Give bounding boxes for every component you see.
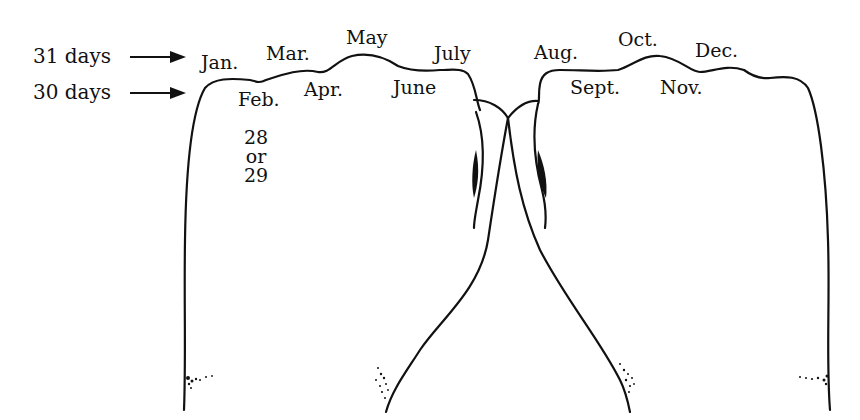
month-oct: Oct. (618, 30, 658, 49)
month-jan: Jan. (201, 53, 238, 72)
left-fist-outline (184, 55, 480, 410)
stipple-shading (186, 363, 829, 399)
knuckle-calendar-diagram: 31 days 30 days Jan. Mar. May July Aug. … (0, 0, 860, 420)
left-thumbnail-shade (472, 150, 478, 198)
month-june: June (393, 78, 436, 97)
month-aug: Aug. (534, 43, 578, 62)
legend-arrows (130, 51, 186, 99)
month-july: July (434, 44, 471, 63)
feb-note-29: 29 (244, 166, 268, 185)
month-may: May (346, 28, 388, 47)
month-mar: Mar. (266, 44, 310, 63)
left-thumb-outline (474, 100, 508, 228)
month-sept: Sept. (570, 78, 620, 97)
month-dec: Dec. (695, 41, 738, 60)
legend-30-days: 30 days (33, 82, 111, 102)
month-apr: Apr. (304, 80, 343, 99)
right-wrist-line (508, 118, 630, 412)
right-fist-outline (538, 56, 830, 410)
left-wrist-line (386, 118, 508, 412)
legend-31-days: 31 days (33, 46, 111, 66)
fists-drawing (0, 0, 860, 420)
month-nov: Nov. (660, 78, 703, 97)
february-days-note: 28 or 29 (244, 128, 268, 185)
month-feb: Feb. (238, 90, 280, 109)
